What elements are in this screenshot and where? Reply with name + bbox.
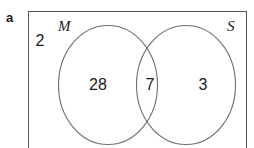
region-count-intersection: 7 bbox=[140, 77, 160, 93]
region-count-s-only: 3 bbox=[188, 77, 218, 93]
venn-circles-svg bbox=[0, 0, 254, 148]
region-count-outside: 2 bbox=[32, 33, 48, 49]
region-count-m-only: 28 bbox=[78, 77, 118, 93]
venn-diagram-figure: a M S 2 28 7 3 bbox=[0, 0, 254, 148]
set-label-m: M bbox=[58, 19, 71, 34]
set-label-s: S bbox=[227, 19, 235, 34]
